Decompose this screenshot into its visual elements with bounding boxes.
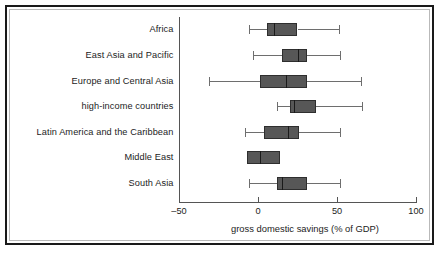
category-label: Latin America and the Caribbean (37, 127, 174, 137)
category-label: Africa (149, 24, 173, 34)
whisker-high-line (307, 183, 340, 184)
x-axis-tick-label: 100 (391, 206, 441, 216)
whisker-low-cap (249, 25, 250, 34)
box-median-line (282, 177, 283, 190)
whisker-low-line (209, 81, 260, 82)
box-iqr (282, 49, 307, 62)
box-median-line (260, 151, 261, 164)
x-axis-tick-label: 50 (312, 206, 362, 216)
whisker-high-line (316, 106, 362, 107)
whisker-high-cap (361, 77, 362, 86)
whisker-low-line (249, 29, 268, 30)
whisker-low-cap (245, 128, 246, 137)
whisker-high-line (307, 81, 361, 82)
whisker-low-cap (209, 77, 210, 86)
box-plot-chart: –50050100gross domestic savings (% of GD… (0, 0, 443, 255)
whisker-high-cap (339, 25, 340, 34)
x-axis-tick (416, 197, 417, 203)
box-median-line (286, 75, 287, 88)
whisker-high-line (298, 29, 339, 30)
whisker-high-cap (340, 179, 341, 188)
figure: –50050100gross domestic savings (% of GD… (0, 0, 443, 255)
x-axis-title: gross domestic savings (% of GDP) (180, 223, 430, 234)
whisker-low-line (245, 132, 264, 133)
category-label: Europe and Central Asia (72, 76, 174, 86)
whisker-high-line (307, 55, 340, 56)
category-label: South Asia (129, 178, 174, 188)
box-median-line (274, 23, 275, 36)
category-label: Middle East (124, 152, 173, 162)
box-iqr (247, 151, 280, 164)
whisker-low-cap (253, 51, 254, 60)
category-label: high-income countries (82, 101, 174, 111)
x-axis-tick (179, 197, 180, 203)
whisker-high-line (299, 132, 340, 133)
y-axis-line (179, 17, 180, 202)
box-iqr (260, 75, 307, 88)
category-label: East Asia and Pacific (86, 50, 174, 60)
box-iqr (264, 126, 299, 139)
box-median-line (294, 100, 295, 113)
whisker-low-line (277, 106, 290, 107)
box-iqr (267, 23, 297, 36)
whisker-high-cap (362, 102, 363, 111)
whisker-low-line (249, 183, 277, 184)
whisker-high-cap (340, 128, 341, 137)
x-axis-tick (337, 197, 338, 203)
x-axis-tick (258, 197, 259, 203)
whisker-low-line (253, 55, 281, 56)
x-axis-tick-label: 0 (233, 206, 283, 216)
box-median-line (288, 126, 289, 139)
x-axis-tick-label: –50 (154, 206, 204, 216)
whisker-high-cap (340, 51, 341, 60)
box-median-line (298, 49, 299, 62)
x-axis-line (179, 202, 417, 203)
whisker-low-cap (249, 179, 250, 188)
whisker-low-cap (277, 102, 278, 111)
